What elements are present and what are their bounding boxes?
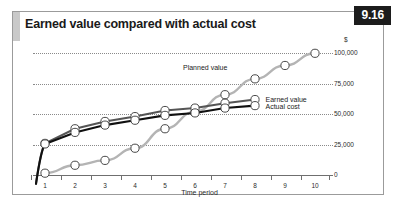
data-point-marker — [221, 91, 229, 99]
series-annotation-label: Planned value — [183, 64, 227, 71]
data-point-marker — [41, 169, 49, 177]
chart-plot-area — [0, 0, 399, 210]
series-line — [36, 100, 255, 184]
data-point-marker — [101, 156, 109, 164]
data-point-marker — [71, 128, 79, 136]
data-point-marker — [161, 125, 169, 133]
data-point-marker — [221, 104, 229, 112]
data-point-marker — [161, 111, 169, 119]
data-point-marker — [71, 161, 79, 169]
data-point-marker — [251, 75, 259, 83]
data-point-marker — [131, 116, 139, 124]
series-annotation-label: Actual cost — [266, 103, 300, 110]
data-point-marker — [191, 109, 199, 117]
figure-container: Earned value compared with actual cost 9… — [0, 0, 399, 210]
data-point-marker — [311, 49, 319, 57]
data-point-marker — [131, 144, 139, 152]
data-point-marker — [281, 61, 289, 69]
data-point-marker — [251, 102, 259, 110]
data-point-marker — [41, 140, 49, 148]
series-annotation-label: Earned value — [266, 96, 307, 103]
data-point-marker — [101, 121, 109, 129]
